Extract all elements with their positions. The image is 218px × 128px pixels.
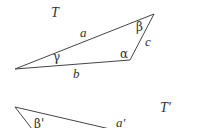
triangle-t-prime xyxy=(15,107,110,128)
side-a-prime-label: a' xyxy=(116,115,126,128)
angle-alpha-label: α xyxy=(120,47,128,61)
side-a-label: a xyxy=(80,25,87,40)
angle-gamma-label: γ xyxy=(53,50,60,64)
triangle-diagram: T a b c γ β α T' β' a' xyxy=(0,0,218,128)
angle-beta-label: β xyxy=(136,20,143,34)
triangle-t-prime-label: T' xyxy=(160,100,172,115)
side-c-label: c xyxy=(145,34,151,49)
triangle-t-label: T xyxy=(51,5,60,20)
angle-beta-prime-label: β' xyxy=(34,117,44,128)
triangle-t xyxy=(15,14,154,69)
side-b-label: b xyxy=(73,66,80,81)
